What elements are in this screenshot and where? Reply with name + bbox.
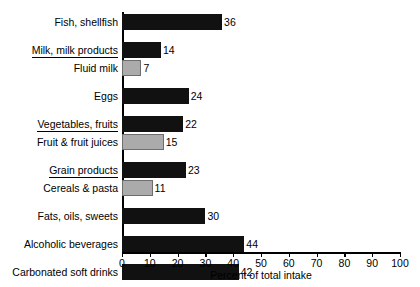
bar-row: 15: [122, 134, 400, 150]
category-label-text: Milk, milk products: [32, 44, 118, 58]
category-label: Eggs: [0, 88, 118, 104]
x-axis-tick-label: 40: [227, 258, 239, 269]
bar-row: 11: [122, 180, 400, 196]
x-axis-tick-label: 10: [144, 258, 156, 269]
bar: [122, 116, 183, 132]
category-label: Fish, shellfish: [0, 14, 118, 30]
category-label: Fluid milk: [0, 60, 118, 76]
bar-value-label: 36: [222, 17, 236, 28]
x-axis-tick-label: 70: [311, 258, 323, 269]
bar-value-label: 24: [189, 91, 203, 102]
bar-row: 14: [122, 42, 400, 58]
x-axis-tick-label: 30: [200, 258, 212, 269]
category-label-text: Fats, oils, sweets: [37, 208, 118, 224]
x-axis-title: Percent of total intake: [122, 270, 400, 281]
category-label: Cereals & pasta: [0, 180, 118, 196]
category-label-text: Alcoholic beverages: [24, 236, 118, 252]
category-label: Grain products: [0, 162, 118, 178]
category-label: Milk, milk products: [0, 42, 118, 58]
category-label-text: Carbonated soft drinks: [12, 264, 118, 280]
x-axis-tick-label: 0: [119, 258, 125, 269]
bar: [122, 42, 161, 58]
bar-row: 36: [122, 14, 400, 30]
bar: [122, 162, 186, 178]
category-label: Fats, oils, sweets: [0, 208, 118, 224]
category-label: Fruit & fruit juices: [0, 134, 118, 150]
bar-row: 22: [122, 116, 400, 132]
category-label-text: Vegetables, fruits: [37, 118, 118, 132]
bar-row: 44: [122, 236, 400, 252]
bar-value-label: 11: [153, 183, 166, 194]
category-label-text: Eggs: [94, 88, 118, 104]
x-axis-tick-label: 100: [391, 258, 409, 269]
bar: [122, 180, 153, 196]
category-label-text: Fish, shellfish: [54, 14, 118, 30]
category-label-text: Fluid milk: [74, 60, 118, 76]
bar-value-label: 14: [161, 45, 175, 56]
bar-value-label: 23: [186, 165, 200, 176]
bar-value-label: 30: [205, 211, 219, 222]
bar: [122, 134, 164, 150]
x-axis-tick-label: 60: [283, 258, 295, 269]
category-label-text: Fruit & fruit juices: [37, 134, 118, 150]
bar-chart: 361472422152311304442 Fish, shellfishMil…: [0, 0, 420, 287]
category-label-text: Grain products: [49, 164, 118, 178]
bar-row: 24: [122, 88, 400, 104]
x-axis-tick-label: 90: [366, 258, 378, 269]
category-label: Carbonated soft drinks: [0, 264, 118, 280]
bar-value-label: 22: [183, 119, 197, 130]
bar-row: 7: [122, 60, 400, 76]
x-axis-tick-label: 20: [172, 258, 184, 269]
bar-value-label: 7: [141, 63, 149, 74]
bar-row: 23: [122, 162, 400, 178]
category-label: Alcoholic beverages: [0, 236, 118, 252]
bar: [122, 236, 244, 252]
x-axis-tick-label: 50: [255, 258, 267, 269]
category-label: Vegetables, fruits: [0, 116, 118, 132]
bar: [122, 60, 141, 76]
bar-value-label: 15: [164, 137, 178, 148]
bar-value-label: 44: [244, 239, 258, 250]
bar: [122, 14, 222, 30]
category-label-text: Cereals & pasta: [43, 180, 118, 196]
bar: [122, 208, 205, 224]
bar-row: 30: [122, 208, 400, 224]
bar: [122, 88, 189, 104]
x-axis-tick-label: 80: [339, 258, 351, 269]
